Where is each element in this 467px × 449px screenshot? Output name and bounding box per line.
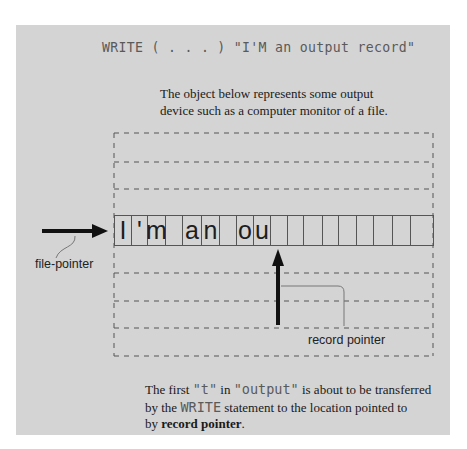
- file-pointer-arrow-icon: [42, 224, 108, 238]
- record-pointer-arrow-icon: [272, 249, 284, 325]
- text: by the: [145, 400, 180, 415]
- file-pointer-label: file-pointer: [35, 257, 93, 271]
- explanation-text: The first "t" in "output" is about to be…: [145, 381, 431, 433]
- bold-record-pointer: record pointer: [161, 416, 241, 431]
- explanation-line-1: The first "t" in "output" is about to be…: [145, 381, 431, 399]
- record-pointer-callout: [281, 286, 344, 326]
- code-write: WRITE: [180, 399, 221, 415]
- text: The first: [145, 382, 193, 397]
- record-pointer-label: record pointer: [308, 333, 385, 347]
- text: by: [145, 416, 161, 431]
- text: statement to the location pointed to: [221, 400, 407, 415]
- text: in: [217, 382, 234, 397]
- explanation-line-3: by record pointer.: [145, 416, 431, 433]
- text: is about to be transferred: [299, 382, 431, 397]
- code-char-t: "t": [193, 381, 217, 397]
- file-pointer-callout: [56, 236, 75, 258]
- explanation-line-2: by the WRITE statement to the location p…: [145, 399, 431, 417]
- text: .: [242, 416, 245, 431]
- code-output: "output": [234, 381, 299, 397]
